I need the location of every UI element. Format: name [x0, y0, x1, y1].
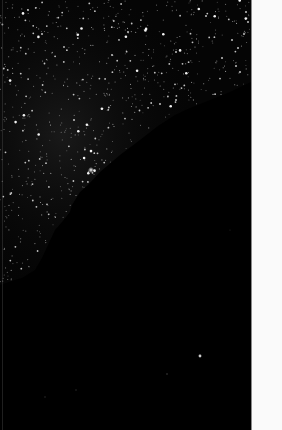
image-frame	[0, 0, 282, 430]
scan-edge-line	[2, 0, 3, 430]
blank-margin-strip	[251, 0, 282, 430]
star-field-photo	[0, 0, 251, 430]
star-field-canvas	[0, 0, 251, 430]
